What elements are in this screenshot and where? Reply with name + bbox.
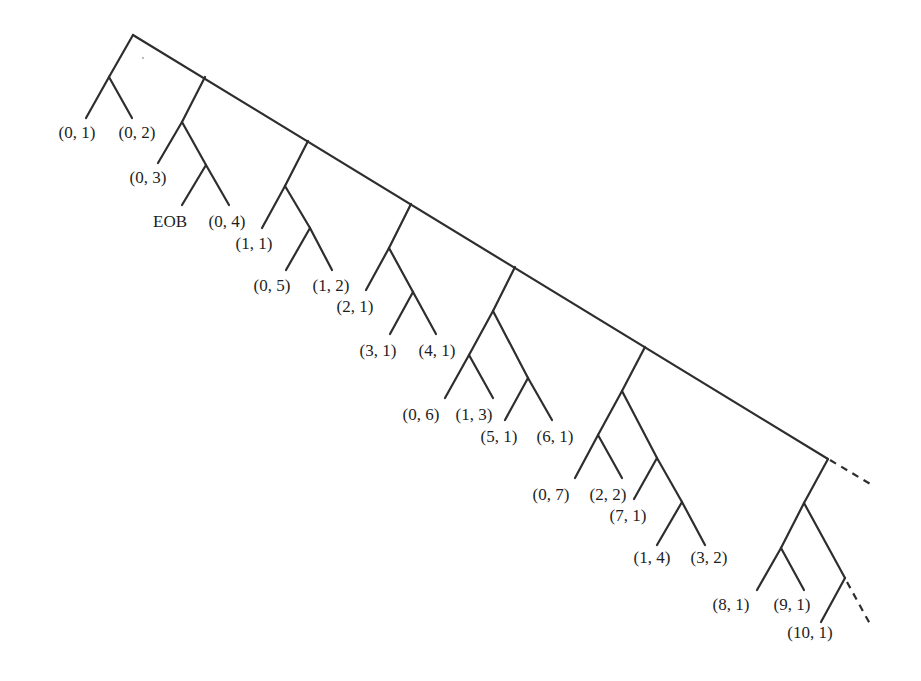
tree-edge	[622, 391, 657, 458]
tree-edge	[206, 165, 229, 205]
tree-edge	[86, 77, 109, 118]
code-tree-diagram: (0, 1)(0, 2)(0, 3)EOB(0, 4)(1, 1)(0, 5)(…	[0, 0, 921, 681]
tree-edge	[757, 548, 781, 590]
leaf-label: (4, 1)	[419, 341, 456, 360]
tree-edge	[182, 122, 206, 165]
tree-edge	[158, 122, 182, 163]
tree-edge	[285, 141, 308, 186]
leaf-label: (5, 1)	[481, 427, 518, 446]
tree-edge	[366, 248, 389, 290]
leaf-label: (0, 2)	[119, 123, 156, 142]
tree-edge	[505, 378, 528, 420]
leaf-label: (7, 1)	[610, 506, 647, 525]
tree-edge	[493, 267, 515, 311]
leaf-label: (3, 1)	[360, 341, 397, 360]
leaf-label: (1, 2)	[313, 276, 350, 295]
tree-edge	[634, 458, 657, 499]
tree-edge	[821, 578, 845, 622]
leaf-label: EOB	[153, 212, 187, 231]
tree-edge	[109, 35, 133, 77]
leaf-label: (6, 1)	[537, 427, 574, 446]
leaf-label: (0, 4)	[209, 212, 246, 231]
tree-edge	[781, 548, 804, 590]
tree-edge	[622, 347, 645, 391]
tree-edge	[575, 435, 598, 478]
leaf-label: (0, 3)	[130, 168, 167, 187]
tree-edge	[310, 228, 332, 270]
leaf-label: (9, 1)	[774, 595, 811, 614]
tree-edge-continuation	[847, 582, 870, 624]
tree-edge	[389, 204, 411, 248]
tree-edge	[469, 311, 493, 355]
leaf-label: (3, 2)	[691, 548, 728, 567]
tree-edge	[182, 165, 206, 205]
tree-edge	[389, 248, 413, 292]
tree-edge	[598, 391, 622, 435]
tree-edge	[182, 77, 205, 122]
leaf-label: (1, 1)	[236, 234, 273, 253]
leaf-label: (1, 4)	[634, 548, 671, 567]
leaf-label: (2, 1)	[337, 297, 374, 316]
tree-edge	[286, 228, 310, 270]
tree-canvas: (0, 1)(0, 2)(0, 3)EOB(0, 4)(1, 1)(0, 5)(…	[0, 0, 921, 681]
tree-edge	[781, 503, 804, 548]
leaf-labels: (0, 1)(0, 2)(0, 3)EOB(0, 4)(1, 1)(0, 5)(…	[59, 123, 833, 642]
tree-edge	[109, 77, 132, 118]
leaf-label: (8, 1)	[713, 595, 750, 614]
tree-edge	[285, 186, 310, 228]
tree-edges	[86, 35, 872, 624]
scan-speck	[142, 57, 144, 59]
tree-edge	[657, 502, 682, 545]
leaf-label: (10, 1)	[787, 623, 832, 642]
tree-edge	[493, 311, 528, 378]
leaf-label: (2, 2)	[590, 485, 627, 504]
leaf-label: (0, 1)	[59, 123, 96, 142]
tree-edge	[390, 292, 413, 334]
leaf-label: (0, 6)	[403, 405, 440, 424]
tree-edge	[682, 502, 705, 545]
leaf-label: (1, 3)	[456, 405, 493, 424]
tree-edge	[804, 503, 845, 578]
tree-edge	[262, 186, 285, 228]
tree-edge	[598, 435, 622, 478]
tree-edge	[528, 378, 552, 420]
tree-edge	[657, 458, 682, 502]
leaf-label: (0, 7)	[533, 485, 570, 504]
tree-edge	[413, 292, 436, 334]
leaf-label: (0, 5)	[254, 276, 291, 295]
tree-edge	[445, 355, 469, 398]
tree-edge	[469, 355, 493, 398]
tree-edge-continuation	[830, 460, 872, 485]
tree-edge	[804, 459, 828, 503]
